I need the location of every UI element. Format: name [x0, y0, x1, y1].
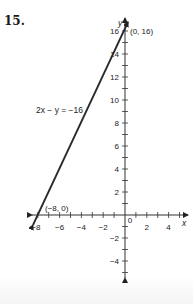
y-tick-label: 2 — [115, 188, 120, 197]
y-axis-label: y — [117, 18, 123, 28]
x-tick-label: −6 — [55, 223, 65, 232]
y-tick-label: −4 — [110, 257, 120, 266]
y-tick-label: 10 — [110, 96, 119, 105]
y-tick-label: 6 — [115, 142, 120, 151]
x-tick-label: −2 — [99, 223, 109, 232]
point-label-y-intercept: (0, 16) — [130, 27, 153, 36]
x-tick-label: −4 — [77, 223, 87, 232]
origin-label: 0 — [128, 216, 133, 225]
point-label-x-intercept: (−8, 0) — [45, 204, 69, 213]
y-tick-label: 12 — [110, 73, 119, 82]
y-tick-label: 8 — [115, 119, 120, 128]
x-axis-label: x — [181, 218, 187, 228]
y-tick-label: 4 — [115, 165, 120, 174]
equation-label: 2x − y = −16 — [36, 105, 83, 115]
coordinate-graph: −8 −6 −4 −2 0 2 4 x 16 14 12 10 8 6 4 2 … — [0, 0, 193, 304]
x-tick-label: 4 — [166, 223, 171, 232]
y-tick-label: −2 — [110, 234, 120, 243]
x-tick-label: 2 — [145, 223, 150, 232]
y-tick-label: 16 — [110, 27, 119, 36]
